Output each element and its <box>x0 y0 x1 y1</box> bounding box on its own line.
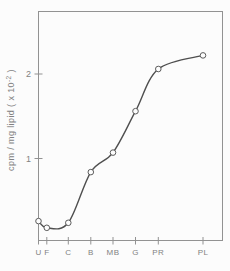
plot-frame <box>39 12 223 241</box>
x-tick-label-mb: MB <box>107 248 120 257</box>
y-axis-label-superscript: -2 <box>5 75 12 82</box>
svg-text:cpm / mg lipid ( x 10-2 ): cpm / mg lipid ( x 10-2 ) <box>5 69 17 171</box>
x-tick-label-g: G <box>132 248 139 257</box>
x-tick-label-u: U <box>35 248 41 257</box>
data-point-f <box>44 225 50 231</box>
figure: cpm / mg lipid ( x 10-2 ) 12UFCBMBGPRPL <box>0 0 230 271</box>
plot-area: 12UFCBMBGPRPL <box>26 12 222 257</box>
y-axis-label: cpm / mg lipid ( x 10-2 ) <box>5 69 17 171</box>
x-tick-label-c: C <box>65 248 71 257</box>
y-tick-label: 2 <box>26 69 31 79</box>
data-point-u <box>36 218 42 224</box>
x-tick-label-f: F <box>44 248 49 257</box>
line-chart: cpm / mg lipid ( x 10-2 ) 12UFCBMBGPRPL <box>0 0 230 271</box>
x-tick-label-b: B <box>88 248 94 257</box>
y-axis-label-suffix: ) <box>6 69 16 75</box>
data-curve <box>39 55 204 229</box>
data-point-pr <box>156 66 162 72</box>
y-tick-label: 1 <box>26 154 31 164</box>
y-axis-label-text: cpm / mg lipid ( x 10 <box>6 82 16 171</box>
data-point-g <box>133 108 139 114</box>
data-point-pl <box>200 53 206 59</box>
data-point-mb <box>110 150 116 156</box>
data-point-b <box>88 169 94 175</box>
x-tick-label-pl: PL <box>198 248 209 257</box>
x-tick-label-pr: PR <box>152 248 164 257</box>
data-point-c <box>66 220 72 226</box>
